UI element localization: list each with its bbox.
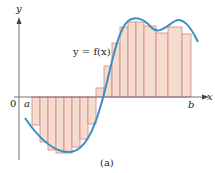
left-endpoint-label: a [24, 99, 30, 109]
right-endpoint-label: b [188, 100, 194, 110]
x-axis-label: x [207, 92, 213, 102]
riemann-sum-diagram [0, 0, 215, 173]
y-axis-label: y [16, 4, 22, 14]
function-label: y = f(x) [73, 47, 111, 57]
y-axis-arrow-icon [17, 17, 22, 24]
figure-caption: (a) [100, 158, 114, 168]
origin-label: 0 [10, 99, 16, 109]
rectangles [32, 22, 191, 153]
